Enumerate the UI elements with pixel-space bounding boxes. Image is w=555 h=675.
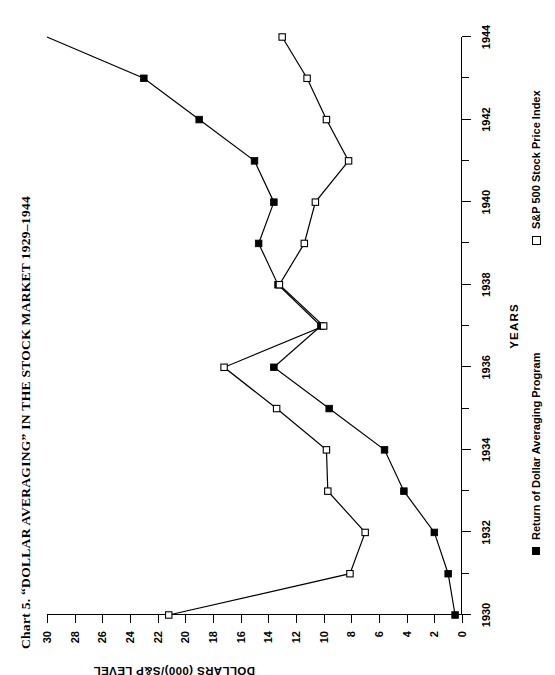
x-tick-label: 1944 [480,25,492,49]
data-point-filled-square [271,364,278,371]
page-title: Chart 5. “DOLLAR AVERAGING” IN THE STOCK… [18,196,34,649]
x-tick-label: 1932 [480,520,492,544]
y-tick-label: 2 [428,631,440,637]
x-tick [462,325,469,326]
y-tick [407,615,408,623]
y-tick [75,615,76,623]
x-tick-label: 1940 [480,190,492,214]
x-tick-label: 1934 [480,438,492,462]
y-tick [102,615,103,623]
x-tick [462,531,471,532]
data-point-open-square [320,323,326,329]
data-point-open-square [347,571,353,577]
y-tick-label: 30 [41,631,53,643]
data-point-open-square [221,364,227,370]
y-tick-label: 24 [124,631,136,643]
x-tick [462,77,469,78]
y-tick [351,615,352,623]
data-point-filled-square [141,75,148,82]
y-tick [213,615,214,623]
y-tick-label: 14 [262,631,274,643]
data-point-filled-square [445,570,452,577]
legend-label: S&P 500 Stock Price Index [530,90,542,229]
y-tick-label: 18 [207,631,219,643]
legend: Return of Dollar Averaging Program S&P 5… [530,35,550,555]
x-tick [462,573,469,574]
y-tick-label: 28 [69,631,81,643]
y-tick [185,615,186,623]
legend-label: Return of Dollar Averaging Program [530,353,542,540]
series-layer [47,37,462,615]
y-tick [130,615,131,623]
y-tick [296,615,297,623]
data-point-filled-square [431,529,438,536]
data-point-open-square [279,34,285,40]
open-square-icon [532,236,541,245]
y-tick-label: 6 [373,631,385,637]
x-tick [462,284,471,285]
x-tick [462,242,469,243]
y-tick-label: 16 [235,631,247,643]
legend-item-sp500: S&P 500 Stock Price Index [530,90,542,245]
rotated-figure: Chart 5. “DOLLAR AVERAGING” IN THE STOCK… [0,0,555,675]
y-tick [462,615,463,623]
data-point-filled-square [255,240,262,247]
y-tick [241,615,242,623]
x-tick [462,160,469,161]
data-point-filled-square [196,116,203,123]
y-tick-label: 0 [456,631,468,637]
data-point-filled-square [271,199,278,206]
data-point-open-square [304,75,310,81]
x-tick-label: 1930 [480,603,492,627]
y-tick-label: 4 [401,631,413,637]
data-point-open-square [325,488,331,494]
x-tick [462,408,469,409]
data-point-open-square [312,199,318,205]
x-tick [462,449,471,450]
y-tick-label: 10 [318,631,330,643]
y-tick [158,615,159,623]
y-tick [379,615,380,623]
x-tick-label: 1936 [480,355,492,379]
y-tick-label: 26 [96,631,108,643]
y-tick-label: 8 [345,631,357,637]
data-point-open-square [362,529,368,535]
data-point-open-square [345,158,351,164]
series-line [47,37,455,615]
data-point-open-square [301,240,307,246]
y-tick-label: 22 [152,631,164,643]
data-point-open-square [276,282,282,288]
data-point-filled-square [381,447,388,454]
series-dollar-averaging [47,37,458,618]
filled-square-icon [532,547,540,555]
data-point-filled-square [251,158,258,165]
y-tick-label: 12 [290,631,302,643]
data-point-open-square [166,612,172,618]
y-axis-title: DOLLARS (000)/S&P LEVEL [93,665,255,675]
plot-area: 19301932193419361938194019421944 0246810… [47,37,462,615]
data-point-filled-square [401,488,408,495]
x-tick [462,119,471,120]
series-line [169,37,365,615]
chart-page: Chart 5. “DOLLAR AVERAGING” IN THE STOCK… [0,0,555,675]
data-point-filled-square [326,405,333,412]
x-tick [462,490,469,491]
y-tick [47,615,48,623]
data-point-filled-square [452,612,459,619]
x-tick-label: 1938 [480,272,492,296]
y-tick [324,615,325,623]
x-axis-title: YEARS [508,303,520,349]
y-tick-label: 20 [179,631,191,643]
x-tick-label: 1942 [480,107,492,131]
x-tick [462,366,471,367]
y-tick [434,615,435,623]
x-tick [462,614,471,615]
y-tick [268,615,269,623]
legend-item-dollar-averaging: Return of Dollar Averaging Program [530,353,542,555]
x-tick [462,36,471,37]
data-point-open-square [273,405,279,411]
data-point-open-square [323,447,329,453]
data-point-open-square [323,116,329,122]
x-tick [462,201,471,202]
